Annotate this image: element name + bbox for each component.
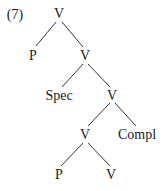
edge-v2-compl <box>115 103 136 126</box>
edge-root-v1 <box>62 22 83 47</box>
node-v-level3: V <box>107 89 117 103</box>
node-v-level4: V <box>80 128 90 142</box>
node-p: P <box>29 49 37 63</box>
node-p-leaf: P <box>55 168 63 182</box>
edge-v3-p2 <box>61 143 83 166</box>
node-v-level2: V <box>80 49 90 63</box>
edge-v2-v3 <box>88 103 110 126</box>
edge-root-p1 <box>36 22 56 46</box>
node-root-v: V <box>54 7 64 21</box>
example-number: (7) <box>7 8 23 22</box>
node-compl: Compl <box>118 128 156 142</box>
edge-v3-v4 <box>88 143 110 166</box>
node-spec: Spec <box>45 89 72 103</box>
tree-edges <box>0 0 165 191</box>
node-v-leaf: V <box>106 168 116 182</box>
edge-v1-v2 <box>88 64 110 87</box>
edge-v1-spec <box>62 64 83 87</box>
